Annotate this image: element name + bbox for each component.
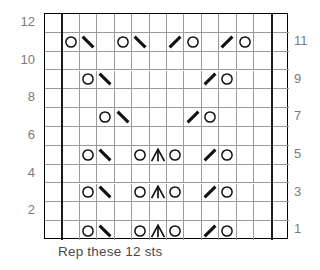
- chart-cell-r4-c10[interactable]: [202, 165, 219, 184]
- chart-cell-r5-c5[interactable]: [115, 146, 132, 165]
- chart-cell-r4-c7[interactable]: [150, 165, 167, 184]
- chart-cell-r12-c2[interactable]: [62, 14, 79, 33]
- chart-cell-r9-c10[interactable]: [202, 71, 219, 90]
- chart-cell-r12-c5[interactable]: [115, 14, 132, 33]
- chart-cell-r5-c13[interactable]: [254, 146, 271, 165]
- chart-cell-r7-c9[interactable]: [184, 108, 201, 127]
- chart-cell-r4-c1[interactable]: [45, 165, 62, 184]
- chart-cell-r12-c7[interactable]: [150, 14, 167, 33]
- chart-cell-r2-c5[interactable]: [115, 202, 132, 221]
- chart-cell-r6-c5[interactable]: [115, 127, 132, 146]
- chart-cell-r3-c2[interactable]: [62, 184, 79, 203]
- chart-cell-r1-c8[interactable]: [167, 221, 184, 240]
- chart-cell-r4-c8[interactable]: [167, 165, 184, 184]
- chart-cell-r12-c13[interactable]: [254, 14, 271, 33]
- chart-cell-r7-c1[interactable]: [45, 108, 62, 127]
- chart-cell-r8-c4[interactable]: [97, 89, 114, 108]
- chart-cell-r10-c2[interactable]: [62, 52, 79, 71]
- chart-cell-r9-c7[interactable]: [150, 71, 167, 90]
- chart-cell-r1-c13[interactable]: [254, 221, 271, 240]
- chart-cell-r1-c1[interactable]: [45, 221, 62, 240]
- chart-cell-r1-c5[interactable]: [115, 221, 132, 240]
- chart-cell-r1-c3[interactable]: [80, 221, 97, 240]
- chart-cell-r3-c8[interactable]: [167, 184, 184, 203]
- chart-cell-r9-c1[interactable]: [45, 71, 62, 90]
- chart-cell-r6-c1[interactable]: [45, 127, 62, 146]
- chart-cell-r10-c1[interactable]: [45, 52, 62, 71]
- chart-cell-r2-c12[interactable]: [237, 202, 254, 221]
- chart-cell-r2-c13[interactable]: [254, 202, 271, 221]
- chart-cell-r7-c4[interactable]: [97, 108, 114, 127]
- chart-cell-r2-c7[interactable]: [150, 202, 167, 221]
- chart-cell-r4-c12[interactable]: [237, 165, 254, 184]
- chart-cell-r10-c10[interactable]: [202, 52, 219, 71]
- chart-cell-r9-c5[interactable]: [115, 71, 132, 90]
- chart-cell-r3-c6[interactable]: [132, 184, 149, 203]
- chart-cell-r12-c8[interactable]: [167, 14, 184, 33]
- chart-cell-r2-c2[interactable]: [62, 202, 79, 221]
- chart-cell-r6-c4[interactable]: [97, 127, 114, 146]
- chart-cell-r5-c11[interactable]: [219, 146, 236, 165]
- chart-cell-r11-c10[interactable]: [202, 33, 219, 52]
- chart-cell-r11-c4[interactable]: [97, 33, 114, 52]
- chart-cell-r11-c12[interactable]: [237, 33, 254, 52]
- chart-cell-r3-c9[interactable]: [184, 184, 201, 203]
- chart-cell-r11-c3[interactable]: [80, 33, 97, 52]
- chart-cell-r1-c7[interactable]: [150, 221, 167, 240]
- chart-cell-r3-c5[interactable]: [115, 184, 132, 203]
- chart-cell-r7-c6[interactable]: [132, 108, 149, 127]
- chart-cell-r6-c9[interactable]: [184, 127, 201, 146]
- chart-cell-r8-c5[interactable]: [115, 89, 132, 108]
- chart-cell-r7-c2[interactable]: [62, 108, 79, 127]
- chart-cell-r4-c2[interactable]: [62, 165, 79, 184]
- chart-cell-r3-c4[interactable]: [97, 184, 114, 203]
- chart-cell-r9-c3[interactable]: [80, 71, 97, 90]
- chart-cell-r3-c12[interactable]: [237, 184, 254, 203]
- chart-cell-r10-c7[interactable]: [150, 52, 167, 71]
- chart-cell-r7-c7[interactable]: [150, 108, 167, 127]
- chart-cell-r1-c4[interactable]: [97, 221, 114, 240]
- chart-cell-r1-c10[interactable]: [202, 221, 219, 240]
- chart-cell-r4-c11[interactable]: [219, 165, 236, 184]
- chart-cell-r9-c9[interactable]: [184, 71, 201, 90]
- chart-cell-r2-c1[interactable]: [45, 202, 62, 221]
- chart-cell-r9-c13[interactable]: [254, 71, 271, 90]
- chart-cell-r10-c6[interactable]: [132, 52, 149, 71]
- chart-cell-r8-c13[interactable]: [254, 89, 271, 108]
- chart-cell-r5-c12[interactable]: [237, 146, 254, 165]
- chart-cell-r2-c9[interactable]: [184, 202, 201, 221]
- chart-cell-r10-c5[interactable]: [115, 52, 132, 71]
- chart-cell-r6-c13[interactable]: [254, 127, 271, 146]
- chart-cell-r10-c11[interactable]: [219, 52, 236, 71]
- chart-cell-r12-c4[interactable]: [97, 14, 114, 33]
- chart-cell-r10-c9[interactable]: [184, 52, 201, 71]
- chart-cell-r12-c1[interactable]: [45, 14, 62, 33]
- chart-cell-r11-c8[interactable]: [167, 33, 184, 52]
- chart-cell-r11-c9[interactable]: [184, 33, 201, 52]
- chart-cell-r6-c6[interactable]: [132, 127, 149, 146]
- chart-cell-r3-c11[interactable]: [219, 184, 236, 203]
- chart-cell-r9-c8[interactable]: [167, 71, 184, 90]
- chart-cell-r12-c11[interactable]: [219, 14, 236, 33]
- chart-cell-r10-c4[interactable]: [97, 52, 114, 71]
- chart-cell-r2-c4[interactable]: [97, 202, 114, 221]
- chart-cell-r3-c3[interactable]: [80, 184, 97, 203]
- chart-cell-r8-c9[interactable]: [184, 89, 201, 108]
- chart-cell-r11-c2[interactable]: [62, 33, 79, 52]
- chart-cell-r8-c8[interactable]: [167, 89, 184, 108]
- chart-cell-r4-c5[interactable]: [115, 165, 132, 184]
- chart-cell-r11-c6[interactable]: [132, 33, 149, 52]
- chart-cell-r10-c3[interactable]: [80, 52, 97, 71]
- chart-cell-r8-c6[interactable]: [132, 89, 149, 108]
- chart-cell-r9-c4[interactable]: [97, 71, 114, 90]
- chart-cell-r10-c12[interactable]: [237, 52, 254, 71]
- chart-cell-r9-c2[interactable]: [62, 71, 79, 90]
- chart-cell-r4-c6[interactable]: [132, 165, 149, 184]
- chart-cell-r4-c9[interactable]: [184, 165, 201, 184]
- chart-cell-r1-c2[interactable]: [62, 221, 79, 240]
- chart-cell-r6-c7[interactable]: [150, 127, 167, 146]
- chart-cell-r11-c1[interactable]: [45, 33, 62, 52]
- chart-cell-r5-c1[interactable]: [45, 146, 62, 165]
- chart-cell-r4-c13[interactable]: [254, 165, 271, 184]
- chart-cell-r1-c11[interactable]: [219, 221, 236, 240]
